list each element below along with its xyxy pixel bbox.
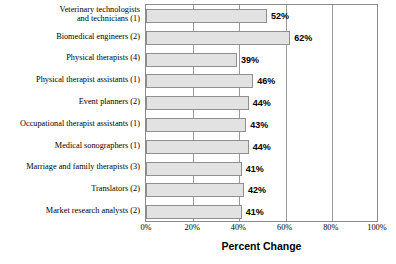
bar-row: 44%: [146, 140, 379, 154]
plot-area: 52%62%39%46%44%43%44%41%42%41%: [145, 4, 378, 222]
bar[interactable]: [146, 53, 237, 67]
bar[interactable]: [146, 140, 249, 154]
bar-row: 42%: [146, 183, 379, 197]
bar-row: 44%: [146, 96, 379, 110]
x-tick-label: 40%: [231, 223, 246, 232]
bar-row: 52%: [146, 9, 379, 23]
bar-value-label: 44%: [249, 142, 271, 152]
x-tick-label: 20%: [185, 223, 200, 232]
bar-value-label: 39%: [237, 55, 259, 65]
bar-row: 41%: [146, 205, 379, 219]
bar[interactable]: [146, 9, 267, 23]
bar-row: 43%: [146, 118, 379, 132]
x-tick-label: 100%: [367, 223, 386, 232]
category-label: Physical therapists (4): [0, 53, 140, 62]
x-axis-ticks: 0%20%40%60%80%100%: [145, 223, 378, 235]
category-label: Event planners (2): [0, 97, 140, 106]
bar[interactable]: [146, 162, 242, 176]
x-tick-label: 60%: [277, 223, 292, 232]
category-label: Medical sonographers (1): [0, 141, 140, 150]
category-label: Market research analysts (2): [0, 206, 140, 215]
bar[interactable]: [146, 31, 290, 45]
bar[interactable]: [146, 74, 253, 88]
x-tick-label: 80%: [323, 223, 338, 232]
category-label: Physical therapist assistants (1): [0, 75, 140, 84]
bar-row: 62%: [146, 31, 379, 45]
bar-value-label: 44%: [249, 98, 271, 108]
category-label: Veterinary technologists and technicians…: [0, 5, 140, 24]
bar-value-label: 46%: [253, 76, 275, 86]
bar[interactable]: [146, 118, 246, 132]
bar[interactable]: [146, 96, 249, 110]
category-label: Marriage and family therapists (3): [0, 162, 140, 171]
bar-value-label: 52%: [267, 11, 289, 21]
bar-value-label: 42%: [244, 185, 266, 195]
category-label: Translators (2): [0, 184, 140, 193]
x-tick-label: 0%: [140, 223, 151, 232]
category-axis: Veterinary technologists and technicians…: [0, 4, 143, 222]
x-axis-title: Percent Change: [145, 240, 378, 252]
bar-value-label: 43%: [246, 120, 268, 130]
bar-chart: Veterinary technologists and technicians…: [0, 0, 396, 264]
bar-row: 39%: [146, 53, 379, 67]
bar-row: 46%: [146, 74, 379, 88]
bar[interactable]: [146, 183, 244, 197]
bar[interactable]: [146, 205, 242, 219]
category-label: Biomedical engineers (2): [0, 32, 140, 41]
bar-value-label: 41%: [242, 207, 264, 217]
bar-value-label: 41%: [242, 164, 264, 174]
category-label: Occupational therapist assistants (1): [0, 119, 140, 128]
bar-row: 41%: [146, 162, 379, 176]
bar-value-label: 62%: [290, 33, 312, 43]
